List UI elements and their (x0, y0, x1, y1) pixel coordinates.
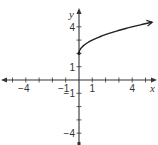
y-axis-label: y (68, 8, 74, 20)
y-tick-label: −4 (64, 128, 76, 139)
curve (77, 20, 152, 55)
y-axis-top-arrow-icon (77, 8, 82, 14)
curve-line (79, 22, 152, 53)
y-axis-bottom-end (78, 142, 81, 145)
tick-labels: −4−11441−1−4xy (18, 8, 155, 139)
y-tick-label: 1 (69, 62, 75, 73)
x-axis-left-arrow-icon (1, 78, 7, 83)
axes (1, 8, 157, 145)
x-tick-label: 1 (90, 83, 96, 94)
x-tick-label: −4 (18, 83, 30, 94)
y-tick-label: −1 (64, 88, 76, 99)
x-tick-label: 4 (129, 83, 135, 94)
graph: −4−11441−1−4xy (0, 0, 158, 145)
x-axis-label: x (149, 82, 155, 94)
start-point (77, 52, 80, 55)
y-tick-label: 4 (69, 22, 75, 33)
